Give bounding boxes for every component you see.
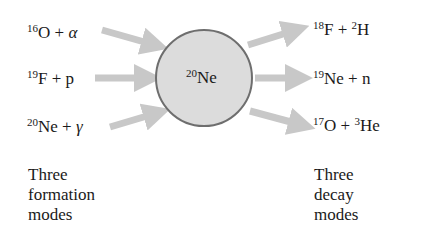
particle: n xyxy=(362,69,371,88)
arrow-decay-1 xyxy=(248,30,296,45)
element-symbol: O xyxy=(324,116,336,135)
plus-sign: + xyxy=(47,69,65,88)
mass-number: 20 xyxy=(27,116,38,128)
center-nucleus-label: 20Ne xyxy=(186,69,217,86)
decay-caption: Three decay modes xyxy=(314,165,358,225)
formation-mode-1: 16O + α xyxy=(27,24,77,41)
plus-sign: + xyxy=(50,23,68,42)
mass-number: 19 xyxy=(27,68,38,80)
formation-mode-3: 20Ne + γ xyxy=(27,118,83,135)
center-mass-number: 20 xyxy=(186,67,197,79)
plus-sign: + xyxy=(344,69,362,88)
caption-line: modes xyxy=(28,205,95,225)
arrow-formation-1 xyxy=(102,30,155,45)
mass-number: 17 xyxy=(313,115,324,127)
formation-arrows xyxy=(95,30,157,127)
mass-number: 18 xyxy=(313,19,324,31)
mass-number: 19 xyxy=(313,68,324,80)
formation-caption: Three formation modes xyxy=(28,165,95,225)
caption-line: Three xyxy=(314,165,358,185)
formation-mode-2: 19F + p xyxy=(27,70,74,87)
caption-line: decay xyxy=(314,185,358,205)
decay-mode-3: 17O + 3He xyxy=(313,117,380,134)
decay-mode-2: 19Ne + n xyxy=(313,70,370,87)
caption-line: formation xyxy=(28,185,95,205)
caption-line: modes xyxy=(314,205,358,225)
decay-mode-1: 18F + 2H xyxy=(313,21,369,38)
caption-line: Three xyxy=(28,165,95,185)
element-symbol: O xyxy=(38,23,50,42)
particle: p xyxy=(66,69,75,88)
element-symbol: Ne xyxy=(324,69,344,88)
decay-arrows xyxy=(248,30,302,125)
particle: α xyxy=(68,23,77,42)
arrow-decay-3 xyxy=(250,111,302,125)
element-symbol: Ne xyxy=(38,117,58,136)
plus-sign: + xyxy=(336,116,354,135)
mass-number: 16 xyxy=(27,22,38,34)
plus-sign: + xyxy=(58,117,76,136)
particle: He xyxy=(360,116,380,135)
center-symbol: Ne xyxy=(197,68,217,87)
arrow-formation-3 xyxy=(110,113,157,127)
plus-sign: + xyxy=(333,20,351,39)
particle: H xyxy=(357,20,369,39)
particle: γ xyxy=(76,117,83,136)
